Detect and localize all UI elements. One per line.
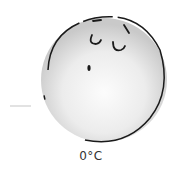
- nose: [87, 65, 90, 71]
- snowball-illustration: [0, 0, 182, 172]
- temperature-label: 0°C: [0, 149, 182, 163]
- snowball-face-icon: [0, 0, 182, 172]
